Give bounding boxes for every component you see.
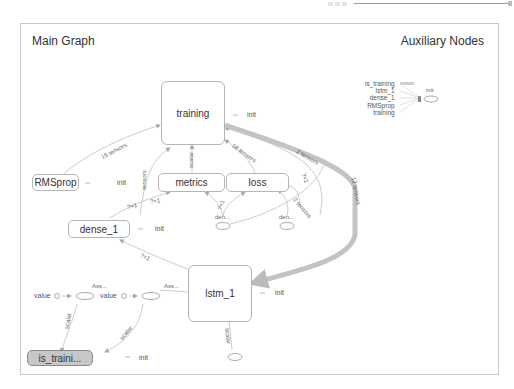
init-label: init	[139, 354, 148, 361]
init-label: init	[117, 179, 126, 186]
aux-item[interactable]: RMSprop	[365, 102, 395, 109]
auxiliary-node-list: is_training lstm_1 dense_1 RMSprop train…	[365, 80, 395, 116]
node-label: dense_1	[80, 224, 118, 235]
node-label: is_traini...	[39, 353, 82, 364]
edge-label: scalar	[188, 152, 194, 168]
node-dense-1[interactable]: dense_1	[68, 220, 130, 238]
node-label: RMSprop	[34, 177, 76, 188]
den-label-a: den...	[215, 214, 230, 220]
node-lstm-1[interactable]: lstm_1	[188, 265, 252, 322]
node-label: metrics	[175, 177, 207, 188]
assign-label-b: Ass...	[164, 283, 179, 289]
den-label-b: den...	[279, 214, 294, 220]
assign-label-a: Ass...	[92, 283, 107, 289]
aux-init-label: init	[426, 87, 434, 93]
node-is-training[interactable]: is_traini...	[27, 350, 93, 366]
aux-item[interactable]: training	[365, 109, 395, 116]
edge-label: tensors	[141, 170, 147, 190]
node-training[interactable]: training	[161, 81, 225, 145]
node-loss[interactable]: loss	[226, 173, 289, 192]
edge-label: scalar	[224, 328, 231, 344]
node-rmsprop[interactable]: RMSprop	[32, 174, 79, 191]
graph-edges	[0, 0, 514, 389]
aux-item[interactable]: dense_1	[365, 94, 395, 101]
init-label: init	[155, 225, 164, 232]
init-label: init	[247, 111, 256, 118]
aux-item[interactable]: is_training	[365, 80, 395, 87]
node-label: loss	[249, 177, 267, 188]
aux-item[interactable]: lstm_1	[365, 87, 395, 94]
init-label: init	[275, 289, 284, 296]
value-input-a: value	[34, 292, 51, 299]
node-metrics[interactable]: metrics	[158, 173, 225, 192]
node-label: training	[177, 108, 210, 119]
value-input-b: value	[100, 292, 117, 299]
node-label: lstm_1	[205, 288, 234, 299]
